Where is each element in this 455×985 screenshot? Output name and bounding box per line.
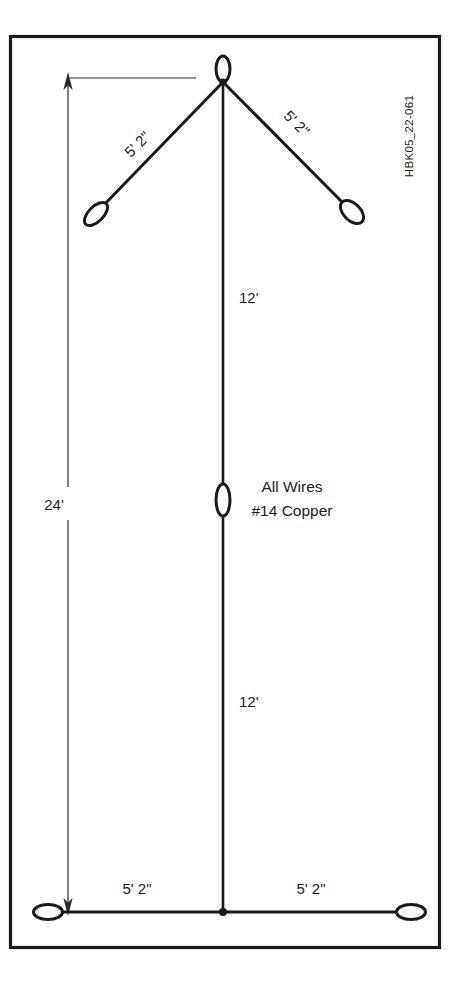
material-note-line2: #14 Copper	[251, 502, 332, 519]
apex-loop-insulator	[216, 56, 230, 82]
upper-vertical-label: 12'	[239, 289, 259, 306]
feed-point-junction	[219, 908, 227, 916]
bottom-left-insulator	[34, 905, 63, 920]
material-note-line1: All Wires	[261, 478, 322, 495]
overall-height-label: 24'	[44, 496, 64, 513]
bottom-right-insulator	[397, 905, 426, 920]
bottom-left-label: 5' 2"	[122, 880, 151, 897]
antenna-diagram: 24' 5' 2" 5' 2" 12' 12' 5' 2"	[0, 0, 455, 985]
left-end-insulator	[80, 198, 111, 229]
antenna-diagram-canvas: 24' 5' 2" 5' 2" 12' 12' 5' 2"	[0, 0, 455, 985]
figure-reference-code: HBK05_22-061	[403, 95, 415, 177]
upper-left-diagonal-wire	[100, 82, 223, 209]
upper-right-diagonal-wire	[223, 82, 347, 207]
diagonal-right-label: 5' 2"	[281, 107, 314, 140]
center-insulator	[216, 484, 230, 516]
bottom-right-label: 5' 2"	[296, 880, 325, 897]
lower-vertical-label: 12'	[239, 693, 259, 710]
diagonal-left-label: 5' 2"	[121, 128, 154, 161]
